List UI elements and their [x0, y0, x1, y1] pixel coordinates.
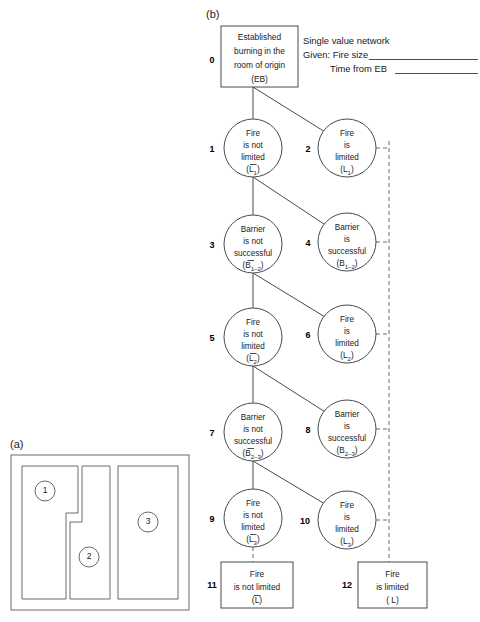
node-8-group[interactable]: 8 Barrier is successful (B2–3)	[305, 400, 376, 458]
node-1-line-1: Fire	[246, 129, 261, 138]
legend-given-fire-size: Given: Fire size	[303, 49, 368, 60]
node-4-line-2: is	[344, 235, 350, 244]
node-2-line-2: is	[344, 141, 350, 150]
node-9-line-2: is not	[243, 511, 263, 520]
node-9-group[interactable]: 9 Fire is not limited (L3)	[209, 489, 282, 547]
node-0-line-3: room of origin	[234, 60, 286, 70]
node-11-index: 11	[207, 580, 217, 590]
node-4-index: 4	[305, 238, 310, 248]
node-10-symbol: (L3)	[340, 537, 354, 547]
node-7-index: 7	[209, 428, 214, 438]
node-1-line-3: limited	[241, 153, 265, 162]
node-10-group[interactable]: 10 Fire is limited (L3)	[300, 491, 376, 549]
node-2-index: 2	[305, 144, 310, 154]
node-6-line-3: limited	[335, 339, 359, 348]
node-6-line-1: Fire	[340, 315, 355, 324]
node-11-line-1: Fire	[250, 569, 265, 579]
node-2-line-1: Fire	[340, 129, 355, 138]
legend-block: Single value network Given: Fire size Ti…	[303, 35, 478, 74]
node-12-symbol: ( L)	[386, 595, 399, 605]
node-5-index: 5	[209, 333, 214, 343]
node-12-index: 12	[342, 580, 352, 590]
node-5-line-1: Fire	[246, 318, 261, 327]
node-7-line-2: is not	[243, 425, 263, 434]
node-7-line-3: successful	[234, 437, 272, 446]
node-4-line-3: successful	[328, 247, 366, 256]
node-6-group[interactable]: 6 Fire is limited (L2)	[305, 305, 376, 363]
floorplan-room-1-label: 1	[43, 485, 48, 495]
node-7-line-1: Barrier	[241, 413, 266, 422]
node-5-symbol: (L2)	[246, 354, 260, 365]
floorplan-group: 1 2 3	[11, 455, 189, 610]
floorplan-room-3-label: 3	[146, 516, 151, 526]
node-3-line-1: Barrier	[241, 225, 266, 234]
node-3-group[interactable]: 3 Barrier is not successful (B1–2)	[209, 215, 282, 273]
node-9-line-3: limited	[241, 523, 265, 532]
node-8-line-3: successful	[328, 434, 366, 443]
node-11-line-2: is not limited	[234, 582, 281, 592]
node-6-index: 6	[305, 330, 310, 340]
node-11-symbol: (L)	[252, 595, 262, 605]
node-3-line-3: successful	[234, 249, 272, 258]
node-4-line-1: Barrier	[335, 223, 360, 232]
node-5-line-2: is not	[243, 330, 263, 339]
node-10-index: 10	[300, 516, 310, 526]
node-6-line-2: is	[344, 327, 350, 336]
node-5-line-3: limited	[241, 342, 265, 351]
node-0-group[interactable]: 0 Established burning in the room of ori…	[209, 26, 298, 87]
node-12-line-2: is limited	[376, 582, 409, 592]
node-4-group[interactable]: 4 Barrier is successful (B1–2)	[305, 213, 376, 271]
node-3-line-2: is not	[243, 237, 263, 246]
node-12-line-1: Fire	[385, 569, 400, 579]
node-1-symbol: (L1)	[246, 165, 260, 176]
panel-b-label: (b)	[206, 8, 219, 20]
node-10-line-3: limited	[335, 525, 359, 534]
legend-time-from-eb: Time from EB	[330, 63, 387, 74]
node-2-symbol: (L1)	[340, 165, 354, 175]
legend-title: Single value network	[303, 35, 390, 46]
svg-text:(L3): (L3)	[246, 535, 260, 545]
node-10-line-2: is	[344, 513, 350, 522]
node-11-group[interactable]: 11 Fire is not limited (L)	[207, 562, 293, 608]
svg-text:(L1): (L1)	[246, 165, 260, 175]
node-0-index: 0	[209, 55, 214, 65]
fire-event-network-figure: (b) Single value network Given: Fire siz…	[0, 0, 480, 622]
node-0-line-4: (EB)	[251, 74, 268, 84]
node-1-index: 1	[209, 144, 214, 154]
node-8-line-2: is	[344, 422, 350, 431]
node-8-line-1: Barrier	[335, 410, 360, 419]
node-5-group[interactable]: 5 Fire is not limited (L2)	[209, 308, 282, 366]
node-10-line-1: Fire	[340, 501, 355, 510]
node-9-symbol: (L3)	[246, 535, 260, 546]
node-0-line-2: burning in the	[234, 46, 285, 56]
node-2-group[interactable]: 2 Fire is limited (L1)	[305, 119, 376, 177]
node-12-group[interactable]: 12 Fire is limited ( L)	[342, 562, 427, 608]
node-7-group[interactable]: 7 Barrier is not successful (B2–3)	[209, 403, 282, 461]
node-3-index: 3	[209, 240, 214, 250]
node-1-group[interactable]: 1 Fire is not limited (L1)	[209, 119, 282, 177]
floorplan-room-2-label: 2	[87, 551, 92, 561]
svg-text:(L2): (L2)	[246, 354, 260, 364]
node-2-line-3: limited	[335, 153, 359, 162]
panel-a-label: (a)	[10, 438, 23, 450]
node-9-index: 9	[209, 514, 214, 524]
node-9-line-1: Fire	[246, 499, 261, 508]
node-1-line-2: is not	[243, 141, 263, 150]
svg-text:(L): (L)	[252, 595, 262, 605]
node-0-line-1: Established	[238, 32, 282, 42]
node-8-index: 8	[305, 425, 310, 435]
node-6-symbol: (L2)	[340, 351, 354, 361]
